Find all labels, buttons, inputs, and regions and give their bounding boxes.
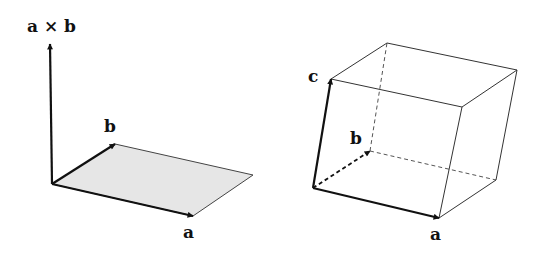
vector-c	[313, 79, 331, 188]
left-figure	[50, 44, 253, 216]
edge	[439, 180, 496, 218]
label-b-left: b	[104, 118, 116, 135]
label-a-cross-b: a × b	[27, 18, 76, 35]
parallelogram	[52, 144, 253, 216]
label-c-right: c	[308, 68, 318, 85]
diagram-canvas	[0, 0, 546, 258]
edge	[439, 107, 462, 218]
vector-a	[313, 188, 439, 218]
label-a-right: a	[430, 226, 441, 243]
vector-b-dashed	[313, 151, 370, 188]
label-a-left: a	[183, 224, 194, 241]
hidden-edge	[370, 151, 496, 180]
hidden-edge	[370, 43, 387, 151]
right-figure	[313, 43, 517, 218]
vector-a-cross-b	[50, 44, 52, 184]
label-b-right: b	[350, 130, 362, 147]
top-face	[331, 43, 517, 107]
edge	[496, 70, 517, 180]
